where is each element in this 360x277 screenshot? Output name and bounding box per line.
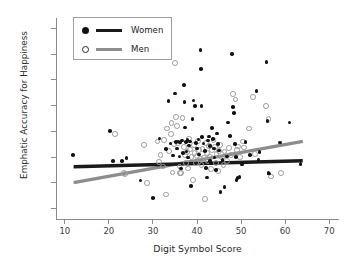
x-tick-label: 50	[227, 226, 255, 236]
data-point	[174, 123, 180, 129]
data-point	[189, 184, 193, 188]
data-point	[224, 158, 230, 164]
data-point	[173, 114, 179, 120]
y-tick-mark	[51, 157, 56, 158]
y-axis-label: Emphatic Accuracy for Happiness	[19, 0, 29, 211]
data-point	[186, 156, 190, 160]
data-point	[120, 159, 124, 163]
data-point	[216, 142, 220, 146]
x-tick-mark	[108, 219, 109, 224]
data-point	[194, 141, 198, 145]
data-point	[203, 149, 207, 153]
x-axis-line	[56, 219, 339, 220]
data-point	[195, 147, 199, 151]
x-tick-label: 30	[139, 226, 167, 236]
x-tick-label: 20	[95, 226, 123, 236]
data-point	[209, 162, 213, 166]
x-tick-mark	[197, 219, 198, 224]
data-point	[237, 154, 243, 160]
y-tick-mark	[51, 131, 56, 132]
data-point	[206, 139, 210, 143]
x-axis-label: Digit Symbol Score	[56, 243, 339, 254]
data-point	[172, 60, 178, 66]
data-point	[144, 180, 150, 186]
data-point	[233, 142, 237, 146]
legend-label-men: Men	[131, 44, 149, 54]
legend-item-men: Men	[74, 40, 173, 58]
data-point	[223, 185, 227, 189]
data-point	[168, 131, 174, 137]
data-point	[182, 83, 186, 87]
data-point	[232, 111, 236, 115]
data-point	[122, 171, 128, 177]
data-point	[208, 144, 212, 148]
data-point	[108, 129, 112, 133]
data-point	[255, 89, 259, 93]
data-point	[238, 175, 242, 179]
x-tick-label: 70	[315, 226, 343, 236]
data-point	[190, 177, 196, 183]
data-point	[240, 163, 244, 167]
data-point	[193, 104, 197, 108]
data-point	[217, 149, 221, 153]
x-tick-label: 10	[51, 226, 79, 236]
data-point	[230, 91, 236, 97]
data-point	[219, 190, 223, 194]
men-line-swatch	[96, 48, 122, 51]
data-point	[111, 159, 115, 163]
data-point	[231, 105, 235, 109]
y-tick-mark	[51, 54, 56, 55]
y-tick-mark	[51, 105, 56, 106]
data-point	[151, 196, 155, 200]
data-point	[175, 147, 179, 151]
data-point	[221, 158, 225, 162]
data-point	[299, 162, 303, 166]
data-point	[199, 48, 203, 52]
data-point	[171, 154, 175, 158]
data-point	[164, 147, 168, 151]
data-point	[199, 67, 203, 71]
legend: Women Men	[73, 17, 172, 60]
filled-circle-icon	[74, 27, 96, 34]
data-point	[212, 147, 216, 151]
y-tick-mark	[51, 79, 56, 80]
legend-item-women: Women	[74, 21, 173, 39]
data-point	[215, 132, 219, 136]
data-point	[213, 160, 219, 166]
x-tick-mark	[64, 219, 65, 224]
data-point	[202, 196, 208, 202]
chart-figure: −0.20.00.20.40.60.81.01.2 10203040506070…	[0, 0, 360, 277]
data-point	[71, 153, 75, 157]
data-point	[248, 153, 252, 157]
x-tick-mark	[152, 219, 153, 224]
data-point	[266, 119, 270, 123]
data-point	[228, 134, 232, 138]
y-axis-line	[56, 18, 57, 219]
data-point	[225, 155, 229, 159]
data-point	[112, 131, 118, 137]
data-point	[226, 145, 232, 151]
y-tick-mark	[51, 208, 56, 209]
open-circle-icon	[74, 46, 96, 53]
data-point	[173, 92, 177, 96]
data-point	[167, 99, 171, 103]
data-point	[234, 155, 238, 159]
data-point	[204, 166, 208, 170]
legend-label-women: Women	[131, 25, 163, 35]
y-tick-mark	[51, 28, 56, 29]
data-point	[214, 168, 218, 172]
women-line-swatch	[96, 29, 122, 32]
y-tick-mark	[51, 182, 56, 183]
x-tick-mark	[285, 219, 286, 224]
data-point	[230, 52, 234, 56]
data-point	[211, 137, 215, 141]
data-point	[210, 126, 214, 130]
data-point	[197, 153, 201, 157]
data-point	[161, 137, 167, 143]
data-point	[200, 104, 204, 108]
x-tick-label: 60	[271, 226, 299, 236]
x-tick-mark	[329, 219, 330, 224]
data-point	[278, 141, 282, 145]
data-point	[258, 150, 262, 154]
data-point	[160, 164, 166, 170]
